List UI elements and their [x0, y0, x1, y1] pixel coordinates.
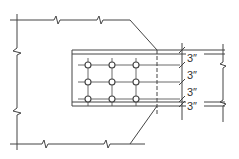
bolt-icon — [109, 62, 115, 68]
left-member-line — [13, 14, 21, 150]
dimension-label-4: 3″ — [187, 100, 197, 112]
bolt-icon — [85, 62, 91, 68]
bolt-icon — [85, 96, 91, 102]
top-member-line — [10, 16, 130, 24]
bottom-member-line — [10, 140, 130, 148]
dimension-label-3: 3″ — [187, 86, 197, 98]
bolt-icon — [109, 79, 115, 85]
right-break-line — [220, 44, 226, 122]
dimension-label-2: 3″ — [187, 69, 197, 81]
gusset-plate-diagram: 3″ 3″ 3″ 3″ — [0, 0, 239, 159]
bolt-gauge-lines — [78, 58, 180, 106]
dimension-label-1: 3″ — [187, 52, 197, 64]
gusset-bottom-diagonal — [130, 106, 157, 144]
gusset-top-diagonal — [130, 20, 157, 50]
bolt-icon — [133, 79, 139, 85]
bolt-icon — [85, 79, 91, 85]
bolt-icon — [133, 62, 139, 68]
bolt-icon — [133, 96, 139, 102]
bolt-icon — [109, 96, 115, 102]
